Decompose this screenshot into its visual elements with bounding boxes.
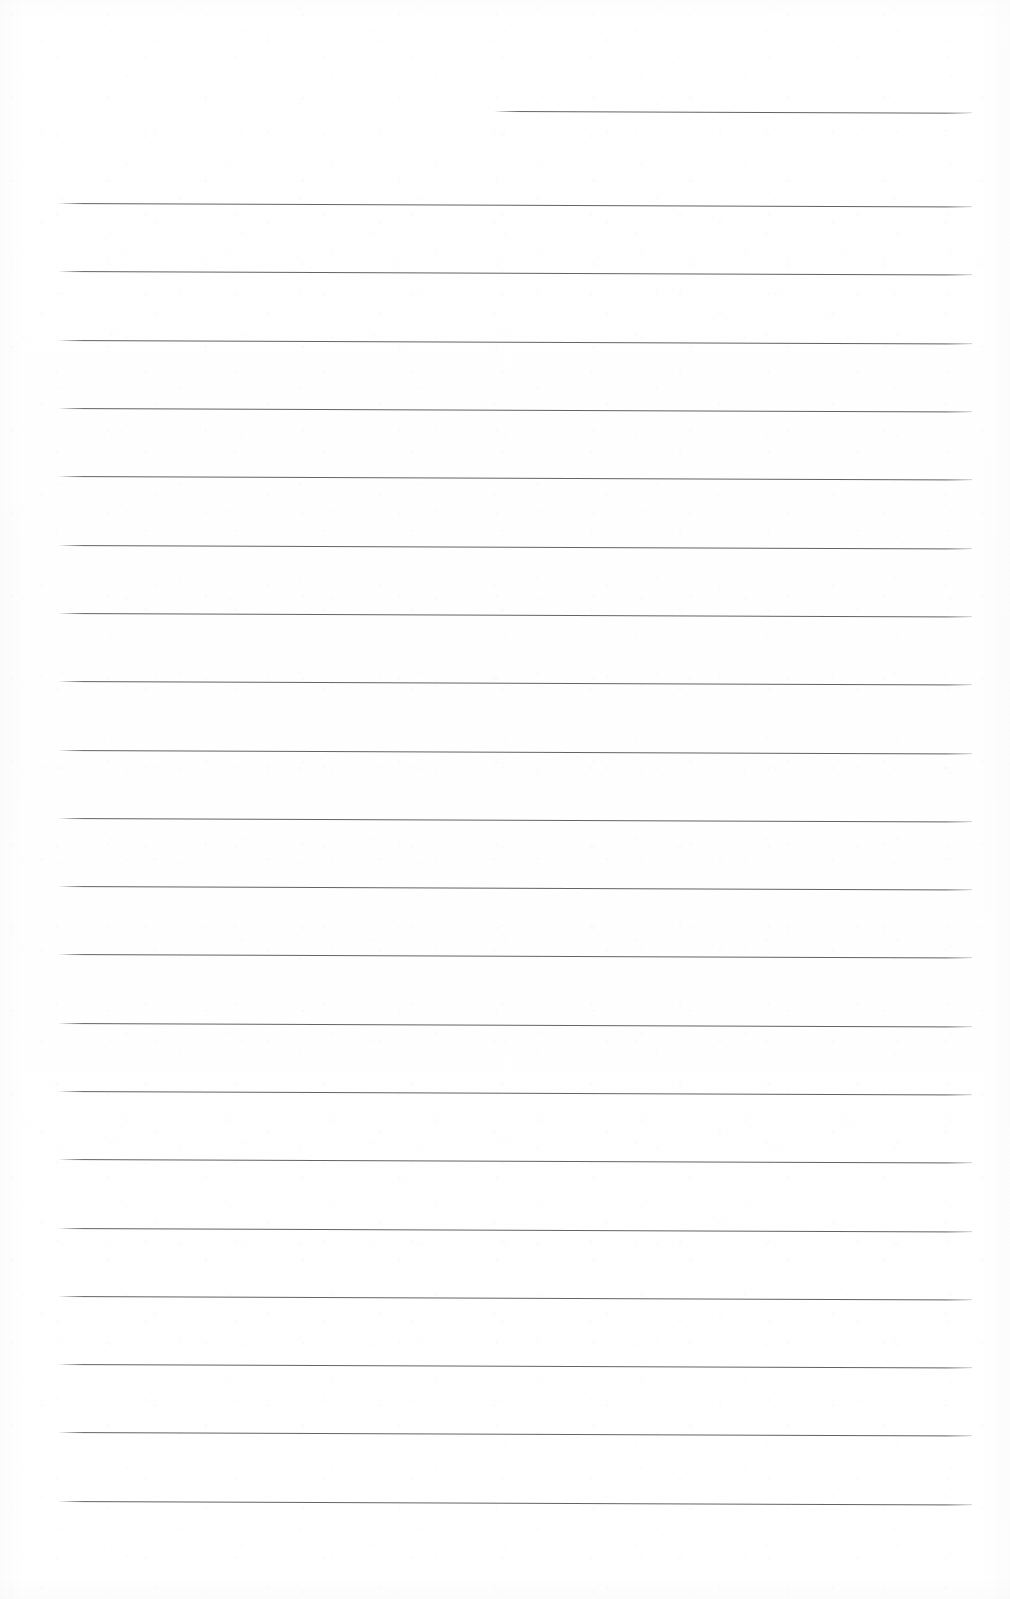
rule-line: [58, 408, 972, 413]
rule-line: [58, 681, 972, 686]
rule-line: [58, 1228, 972, 1233]
rule-line: [58, 340, 972, 345]
rule-line: [58, 1159, 972, 1164]
rule-line: [58, 545, 972, 550]
rule-line: [58, 818, 972, 823]
rule-line: [58, 1364, 972, 1369]
rule-line: [58, 271, 972, 276]
scan-edge-shading: [0, 0, 1010, 1599]
scanned-page: [0, 0, 1010, 1599]
short-rule-line: [494, 111, 972, 114]
rule-line: [58, 1296, 972, 1301]
rule-line: [58, 613, 972, 618]
rule-line: [58, 203, 972, 208]
rule-line: [58, 1432, 972, 1437]
rule-line: [58, 1023, 972, 1028]
rule-line: [58, 476, 972, 481]
rule-line: [58, 954, 972, 959]
rule-line: [58, 886, 972, 891]
rule-line: [58, 750, 972, 755]
rule-line: [58, 1501, 972, 1506]
rule-line: [58, 1091, 972, 1096]
paper-texture: [0, 0, 1010, 1599]
